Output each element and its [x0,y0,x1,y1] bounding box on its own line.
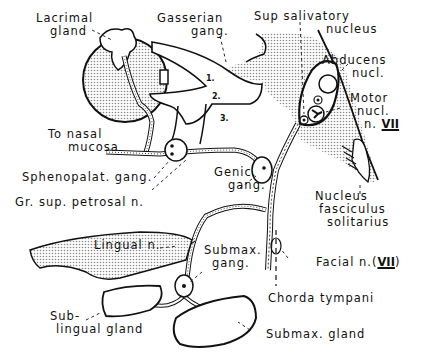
label-submax-gland: Submax. gland [266,328,365,341]
label-line: nucl. [322,67,386,80]
roman-numeral: VII [377,255,394,269]
label-facial-n: Facial n.(VII) [316,256,400,269]
trigeminal-division-3: 3. [220,114,229,123]
label-nucleus-fasciculus-solitarius: Nucleus fasciculus solitarius [315,190,389,229]
label-line: gang. [157,25,229,38]
label-line: Facial n.( [316,255,377,269]
roman-numeral: VII [382,117,399,131]
label-to-nasal-mucosa: To nasal mucosa [48,128,119,154]
label-sublingual-gland: Sub- lingual gland [50,310,143,336]
label-line: lingual gland [50,323,143,336]
label-lacrimal-gland: Lacrimal gland [36,12,93,38]
submax-gland [174,296,256,347]
label-line: gland [36,25,93,38]
label-abducens-nucl: Abducens nucl. [322,54,386,80]
facial-nerve-diagram: Lacrimal gland Gasserian gang. Sup saliv… [0,0,424,356]
label-submax-gang: Submax. gang. [204,244,262,270]
label-line: mucosa [48,141,119,154]
label-sup-salivatory-nucleus: Sup salivatory nucleus [254,10,377,36]
label-motor-nucl: Motor nucl. n. VII [350,92,399,131]
label-sphenopalat-gang: Sphenopalat. gang. [22,171,152,184]
label-line: gang. [204,257,262,270]
label-genic-gang: Genic. gang. [214,166,266,192]
trigeminal-division-2: 2. [212,92,221,101]
label-line: n. [364,117,377,131]
label-chorda-tympani: Chorda tympani [268,292,374,305]
sphenopalatine-ganglion [165,139,187,161]
label-line: gang. [214,179,266,192]
label-lingual-n: Lingual n. [94,239,160,252]
label-line: nucleus [254,23,377,36]
label-line: solitarius [315,216,389,229]
trigeminal-division-1: 1. [206,74,215,83]
label-gr-sup-petrosal-n: Gr. sup. petrosal n. [15,196,144,209]
label-gasserian-gang: Gasserian gang. [157,12,229,38]
label-line: ) [395,255,401,269]
